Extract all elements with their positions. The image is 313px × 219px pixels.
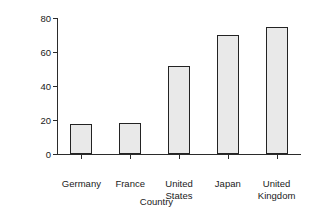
y-tick-label: 0 (46, 149, 51, 160)
y-tick-mark (53, 18, 57, 19)
x-tick-mark (228, 155, 229, 159)
bar (119, 123, 141, 154)
y-tick-label: 60 (40, 47, 51, 58)
y-tick-mark (53, 154, 57, 155)
y-tick-label: 20 (40, 115, 51, 126)
x-tick-mark (130, 155, 131, 159)
bar-chart: Market capital/GDP (%) 020406080 Germany… (0, 0, 313, 219)
y-tick-label: 80 (40, 13, 51, 24)
plot-area: 020406080 GermanyFranceUnited StatesJapa… (57, 18, 301, 155)
y-tick-mark (53, 120, 57, 121)
x-tick-mark (179, 155, 180, 159)
x-tick-mark (277, 155, 278, 159)
y-tick-label: 40 (40, 81, 51, 92)
bar (217, 35, 239, 154)
x-tick-mark (81, 155, 82, 159)
y-axis-line (57, 18, 58, 155)
x-axis-title: Country (0, 196, 313, 207)
bar (70, 124, 92, 154)
y-tick-mark (53, 86, 57, 87)
y-tick-mark (53, 52, 57, 53)
bar (266, 27, 288, 154)
bar (168, 66, 190, 154)
